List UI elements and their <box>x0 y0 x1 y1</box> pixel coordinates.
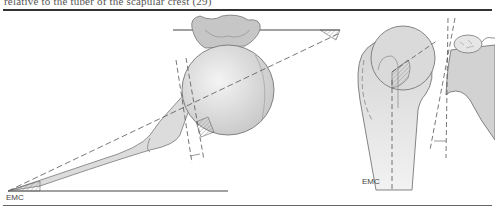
emc-label-left: EMC <box>6 193 24 202</box>
anatomical-figure: EMC EMC <box>0 0 495 212</box>
coracoid <box>454 35 482 53</box>
emc-label-right: EMC <box>362 177 380 186</box>
right-panel: EMC <box>358 18 495 190</box>
greater-tuberosity <box>192 15 261 48</box>
scapula-glenoid <box>446 45 495 140</box>
angle-wedge-top <box>320 30 340 40</box>
humeral-axis-line <box>8 33 340 191</box>
scapular-spine <box>8 90 195 191</box>
angle-wedge-bottom <box>8 181 40 191</box>
left-panel: EMC <box>6 15 340 202</box>
humeral-head <box>182 45 274 135</box>
